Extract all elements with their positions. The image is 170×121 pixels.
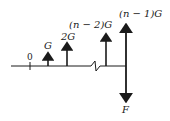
zero-label: 0 (27, 52, 33, 62)
label-2g: 2G (60, 31, 75, 42)
label-g: G (44, 40, 52, 51)
baseline (11, 61, 126, 71)
label-f: F (121, 104, 130, 115)
force-diagram: 0 G 2G (n − 2)G (n − 1)G F (0, 0, 170, 121)
break-mark (91, 61, 100, 71)
label-n-minus-2-g: (n − 2)G (69, 19, 112, 30)
label-n-minus-1-g: (n − 1)G (119, 8, 162, 19)
